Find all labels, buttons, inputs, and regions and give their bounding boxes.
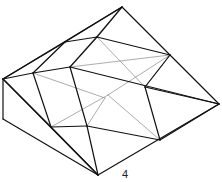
edge-c1-right [145,87,219,104]
edge-b1-b2 [51,126,87,127]
edge-s2-r2 [108,95,160,140]
figure-label: 4 [122,168,128,180]
edge-rmid-m2 [70,55,170,67]
edge-c1-rmid [145,55,170,87]
polyhedron-diagram: 4 [0,0,222,182]
edge-r2-right [160,104,219,140]
edge-r2-c1 [145,87,160,140]
edge-m1-s1 [33,73,105,98]
polyhedron-figure: 4 [0,0,222,182]
edge-left-b1 [3,79,51,127]
edge-m2-ul2 [70,37,97,67]
edge-b2-r2 [87,126,160,140]
edge-b2-bottom [87,126,98,175]
edge-b2-s1 [87,98,105,126]
edge-ul1-top [65,7,122,42]
thick-edges [3,7,219,175]
thin-edges [33,7,170,140]
edge-ul2-rmid [97,37,170,55]
edge-ul2-top [97,7,122,37]
edge-m2-b2 [70,67,87,126]
edge-top-right [122,7,219,104]
